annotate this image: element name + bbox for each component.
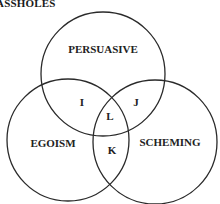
- region-l-label: L: [106, 110, 113, 122]
- venn-diagram: PERSUASIVE EGOISM SCHEMING I J L K: [0, 0, 220, 204]
- region-j-label: J: [133, 96, 139, 108]
- label-persuasive: PERSUASIVE: [68, 43, 138, 55]
- region-i-label: I: [80, 96, 84, 108]
- region-k-label: K: [108, 144, 117, 156]
- circle-persuasive: [41, 12, 165, 136]
- label-egoism: EGOISM: [30, 137, 76, 149]
- label-scheming: SCHEMING: [139, 136, 201, 148]
